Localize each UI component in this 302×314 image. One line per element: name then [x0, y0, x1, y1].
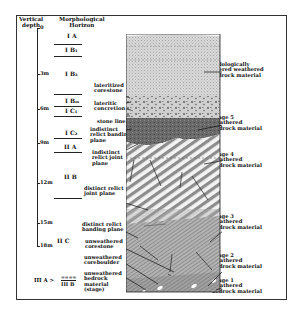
horizon-IC2: I C₂ [65, 130, 77, 135]
label-line: plane [92, 161, 123, 166]
horizon-IIA: II A [64, 144, 76, 149]
horizon-IIIA: III A > [34, 278, 54, 283]
depth-label-18m: 18m [40, 243, 53, 248]
label-line: coreboulder [84, 260, 122, 265]
label-indistinct-relict-joint-plane: indistinct relict joint plane [92, 150, 123, 166]
depth-label-6m: 6m [40, 106, 49, 111]
label-lateritized-corestone: lateritized corestone [94, 83, 124, 94]
diagram-frame: Vertical depth Morphological Horizon 0 3… [16, 15, 287, 300]
stage-4-zone [126, 134, 220, 209]
horizon-IBm: I Bₘ [65, 98, 79, 103]
horizon-IIC: II C [57, 238, 69, 243]
horizon-IB2: I B₂ [65, 71, 78, 76]
label-line: plane [90, 138, 131, 143]
horizon-boundary [54, 198, 82, 199]
horizon-IIIB: III B [61, 282, 74, 287]
horizon-IA: I A [67, 33, 77, 38]
label-distinct-relict-banding-plane: distinct relict banding plane [82, 222, 124, 233]
label-line: (stage) [84, 287, 122, 292]
horizon-header: Morphological Horizon [59, 17, 105, 29]
horizon-IC1: I C₁ [65, 108, 77, 113]
label-line: corestone [85, 244, 123, 249]
label-line: banding plane [82, 227, 124, 232]
horizon-boundary [54, 152, 82, 153]
depth-label-9m: 9m [40, 140, 49, 145]
horizon-boundary [54, 56, 82, 57]
pedologically-altered-zone [126, 35, 220, 97]
horizon-boundary [54, 116, 82, 117]
depth-label-0: 0 [40, 25, 44, 30]
depth-label-12m: 12m [40, 180, 53, 185]
depth-label-15m: 15m [40, 220, 53, 225]
depth-label-3m: 3m [40, 71, 49, 76]
horizon-IIB: II B [64, 174, 77, 179]
weathering-profile-column [126, 34, 222, 294]
label-unweathered-corestone: unweathered corestone [85, 239, 123, 250]
label-unweathered-coreboulder: unweathered coreboulder [84, 255, 122, 266]
horizon-IB1: I B₁ [65, 47, 78, 52]
label-unweathered-bedrock-material: unweathered bedrock material (stage) [84, 271, 122, 293]
lateritic-concretion-zone [126, 96, 220, 118]
horizon-boundary [54, 94, 82, 95]
label-line: joint plane [84, 191, 124, 196]
label-line: concretion [94, 106, 125, 111]
label-line: corestone [94, 88, 124, 93]
horizon-header-line2: Horizon [59, 23, 105, 29]
horizon-boundary [54, 44, 82, 45]
label-distinct-relict-joint-plane: distinct relict joint plane [84, 186, 124, 197]
label-lateritic-concretion: lateritic concretion [94, 101, 125, 112]
horizon-boundary [54, 138, 82, 139]
depth-axis [37, 28, 38, 246]
label-indistinct-relict-banding-plane: indistinct relict banding plane [90, 127, 131, 143]
label-stone-line: stone line [97, 119, 126, 124]
